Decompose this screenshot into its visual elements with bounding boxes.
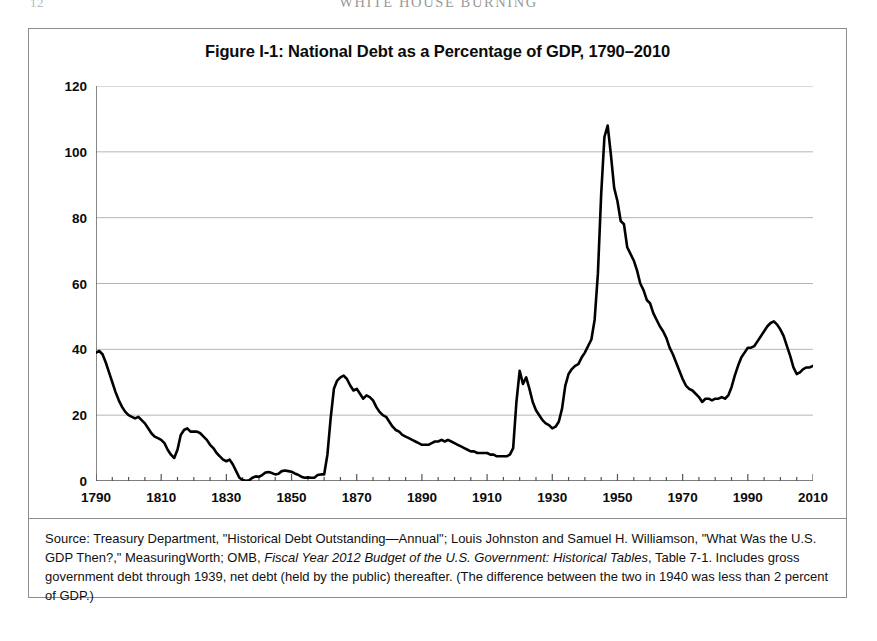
- x-tick-label: 1990: [733, 490, 763, 505]
- x-tick-label: 1950: [602, 490, 632, 505]
- chart-gridlines: [96, 86, 813, 415]
- x-tick-label: 1810: [146, 490, 176, 505]
- y-tick-label: 20: [72, 408, 87, 423]
- chart-data-line: [96, 126, 813, 481]
- x-tick-label: 1870: [342, 490, 372, 505]
- figure-source-note: Source: Treasury Department, "Historical…: [45, 529, 833, 605]
- y-tick-label: 0: [79, 474, 87, 489]
- y-tick-label: 80: [72, 210, 87, 225]
- page-running-head: 12 WHITE HOUSE BURNING: [0, 0, 877, 16]
- x-tick-label: 1970: [668, 490, 698, 505]
- y-tick-label: 60: [72, 276, 87, 291]
- x-tick-label: 1830: [211, 490, 241, 505]
- x-tick-label: 1930: [537, 490, 567, 505]
- y-tick-label: 40: [72, 342, 87, 357]
- y-tick-label: 100: [64, 144, 87, 159]
- x-tick-label: 1790: [81, 490, 111, 505]
- source-note-divider: [29, 518, 846, 519]
- x-tick-label: 1910: [472, 490, 502, 505]
- y-tick-label: 120: [64, 79, 87, 94]
- x-tick-label: 2010: [798, 490, 828, 505]
- chart-plot-area: 020406080100120 179018101830185018701890…: [96, 86, 813, 481]
- chart-svg: [96, 86, 813, 481]
- figure-container: Figure I-1: National Debt as a Percentag…: [28, 28, 847, 598]
- figure-title: Figure I-1: National Debt as a Percentag…: [29, 42, 846, 61]
- x-tick-label: 1890: [407, 490, 437, 505]
- x-tick-label: 1850: [277, 490, 307, 505]
- running-head-title: WHITE HOUSE BURNING: [0, 0, 877, 11]
- source-note-title-italic: Fiscal Year 2012 Budget of the U.S. Gove…: [264, 550, 648, 565]
